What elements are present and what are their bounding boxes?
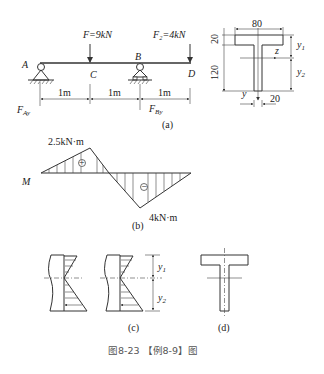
load-label-d: F₂=4kN (152, 29, 187, 40)
load-label-c: F=9kN (82, 29, 113, 40)
y1-label: y1 (296, 39, 305, 52)
pin-support-icon (28, 64, 54, 85)
reaction-label-b: FBy (148, 103, 163, 116)
span-label-ac: 1m (58, 87, 71, 98)
y2-label: y2 (296, 66, 305, 79)
subfigure-label-a: (a) (162, 119, 173, 131)
figure-caption: 图8-23 【例8-9】图 (108, 345, 198, 356)
point-label-a: A (21, 59, 29, 70)
t-section-dimensioned: 80 20 120 y z y1 y2 20 (209, 18, 305, 107)
subfigure-label-b: (b) (132, 220, 144, 232)
beam-diagram: F=9kN F₂=4kN A B C D 1m 1m 1m FAy FBy (a… (16, 29, 196, 131)
reaction-label-a: FAy (16, 104, 31, 117)
span-label-cb: 1m (108, 87, 121, 98)
stress-y2-label: y2 (157, 292, 166, 305)
span-label-bd: 1m (158, 87, 171, 98)
moment-axis-label: M (21, 176, 31, 187)
point-label-c: C (90, 69, 97, 80)
roller-support-icon (128, 64, 152, 85)
subfigure-label-d: (d) (218, 322, 230, 334)
stress-distribution: y1 y2 (c) (44, 255, 166, 334)
max-negative-moment: 4kN·m (149, 212, 178, 223)
point-label-b: B (135, 51, 141, 62)
subfigure-label-c: (c) (128, 322, 139, 334)
axis-y-label: y (241, 88, 247, 99)
web-height-label: 120 (209, 65, 220, 80)
web-width-label: 20 (270, 93, 280, 104)
point-label-d: D (187, 68, 196, 79)
moment-diagram: + − M 2.5kN·m 4kN·m (b) (21, 136, 191, 232)
max-positive-moment: 2.5kN·m (48, 136, 84, 147)
t-section-outline-d: (d) (201, 248, 248, 334)
axis-z-label: z (274, 45, 279, 56)
negative-sign: − (142, 181, 148, 192)
stress-y1-label: y1 (157, 261, 166, 274)
t-section-outline (235, 35, 283, 91)
figure-canvas: F=9kN F₂=4kN A B C D 1m 1m 1m FAy FBy (a… (0, 0, 324, 374)
flange-label: 20 (209, 34, 220, 44)
positive-sign: + (79, 157, 85, 168)
width-label: 80 (252, 18, 262, 29)
